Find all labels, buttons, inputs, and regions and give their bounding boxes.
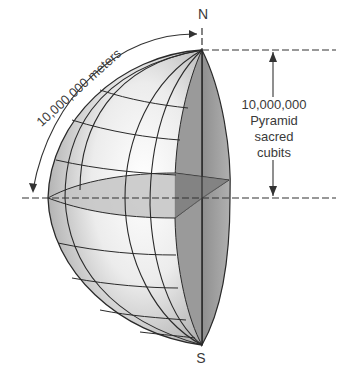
radius-label-line2: Pyramid	[236, 113, 312, 129]
radius-label-line3: sacred	[236, 129, 312, 145]
earth-cutaway-illustration	[0, 0, 363, 391]
radius-label-line1: 10,000,000	[236, 97, 312, 113]
north-pole-label: N	[196, 6, 210, 22]
south-pole-label: S	[194, 350, 208, 366]
radius-label-line4: cubits	[236, 145, 312, 161]
diagram-canvas: N S 10,000,000 meters 10,000,000 Pyramid…	[0, 0, 363, 391]
